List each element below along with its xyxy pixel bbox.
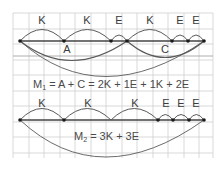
arc-label: E [177,97,184,109]
arc-label: K [131,97,139,109]
arc-label: K [83,14,91,26]
arc-label: E [192,97,199,109]
arc-label: E [115,14,122,26]
arc-label: K [84,97,92,109]
arc-label: K [38,14,46,26]
arc-decomposition-diagram: K K E K E E A C M1 = A + C = 2K + 1E + 1… [0,0,220,171]
arc-label: E [176,14,183,26]
top-figure [20,30,204,77]
formula-m2: M2 = 3K + 3E [74,130,139,143]
arc-label: E [162,97,169,109]
chord-label-a: A [63,43,71,55]
arc-label: K [38,97,46,109]
bottom-arc-labels: K K K E E E [38,97,199,109]
formula-m1: M1 = A + C = 2K + 1E + 1K + 2E [33,78,189,91]
arc-label: K [146,14,154,26]
chord-label-c: C [161,43,169,55]
arc-label: E [192,14,199,26]
